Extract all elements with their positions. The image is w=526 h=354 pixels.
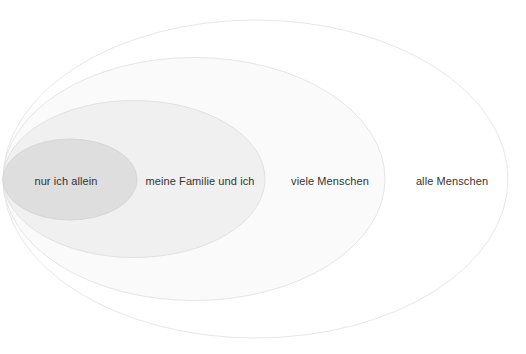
ellipse-label-nur-ich-allein: nur ich allein [34, 175, 97, 188]
ellipse-label-meine-familie-und-ich: meine Familie und ich [145, 175, 254, 188]
euler-diagram-canvas: alle Menschenviele Menschenmeine Familie… [0, 0, 526, 354]
ellipse-label-viele-menschen: viele Menschen [291, 175, 369, 188]
ellipse-label-alle-menschen: alle Menschen [416, 175, 488, 188]
